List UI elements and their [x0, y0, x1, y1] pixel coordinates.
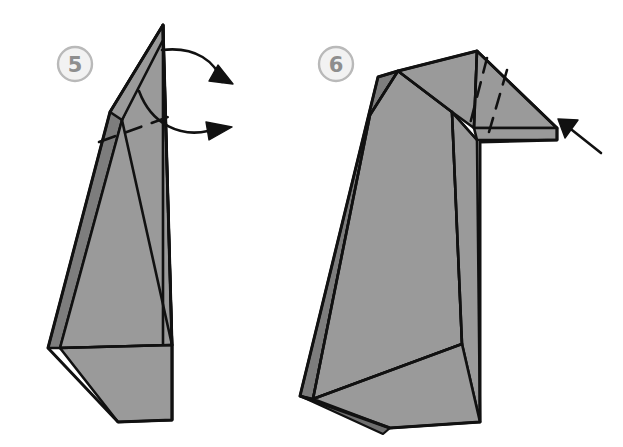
step5-tail-panel	[60, 345, 172, 422]
valley-fold-arrow-upper-head	[209, 65, 233, 84]
step-badge-5-label: 5	[68, 53, 83, 77]
step6-beak-tab	[474, 128, 557, 140]
origami-instruction-diagram: 5	[0, 0, 623, 447]
push-arrow-beak-shaft	[572, 130, 601, 153]
push-arrow-beak-head	[558, 119, 578, 138]
step-badge-6-label: 6	[329, 53, 344, 77]
valley-fold-arrow-lower-head	[206, 122, 232, 140]
step6-body-main	[313, 71, 462, 399]
origami-diagram-canvas: 5	[0, 0, 623, 447]
step-6-figure: 6	[300, 47, 601, 434]
step-5-figure: 5	[48, 25, 233, 422]
